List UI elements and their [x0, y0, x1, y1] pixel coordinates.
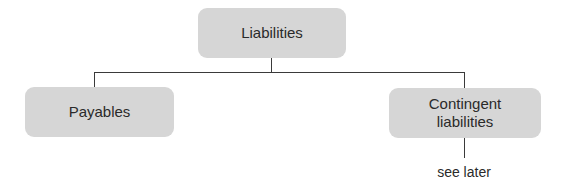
node-liabilities-label: Liabilities [241, 24, 303, 42]
connector-horizontal [94, 72, 465, 73]
note-see-later-text: see later [437, 164, 491, 180]
connector-to-payables [94, 72, 95, 87]
node-payables-label: Payables [69, 103, 131, 121]
connector-root-down [271, 58, 272, 73]
note-see-later: see later [414, 164, 514, 180]
connector-to-contingent [464, 72, 465, 88]
node-contingent-liabilities: Contingent liabilities [389, 88, 541, 138]
node-payables: Payables [25, 87, 174, 137]
node-contingent-label-line2: liabilities [437, 113, 494, 131]
node-liabilities: Liabilities [198, 8, 346, 58]
node-contingent-label-line1: Contingent [429, 95, 502, 113]
connector-to-note [464, 138, 465, 158]
